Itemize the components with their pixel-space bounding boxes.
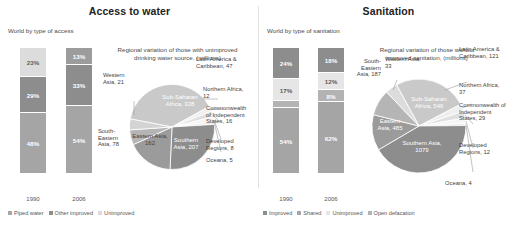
pie-label-cis: Commonwealth of Independent States, 29	[459, 102, 507, 122]
pie-label-northern-africa: Northern Africa, 37	[459, 82, 505, 95]
pie-label-south-eastern-asia: South-Eastern Asia, 187	[351, 58, 381, 78]
pie-label-oceana: Oceana, 5	[206, 157, 250, 164]
legend-item-improved: Improved	[263, 210, 292, 216]
pie-label-latin-america: Latin America & Caribbean, 47	[196, 56, 244, 69]
bar-segment-label: 33%	[66, 82, 92, 89]
legend-swatch-icon	[49, 211, 53, 215]
bar-segment-label: 8%	[318, 92, 344, 99]
bar-segment-piped-water: 48%	[20, 113, 46, 173]
legend-item-piped-water: Piped water	[8, 210, 44, 216]
legend-swatch-icon	[263, 211, 267, 215]
pie-label-oceana: Oceana, 4	[445, 180, 485, 187]
bar-segment-label: 17%	[273, 86, 299, 93]
bar-segment-label: 54%	[66, 136, 92, 143]
bars-subtitle-sanitation: World by type of sanitation	[267, 27, 340, 34]
legend-swatch-icon	[8, 211, 12, 215]
bar-year-label-1990: 1990	[270, 196, 302, 202]
bar-year-label-2006: 2006	[315, 196, 347, 202]
legend-item-shared: Shared	[297, 210, 321, 216]
panel-sanitation: Sanitation World by type of sanitation 2…	[259, 0, 518, 231]
bar-segment-other-improved: 29%	[20, 77, 46, 113]
pie-label-southern-asia: Southern Asia, 207	[167, 137, 205, 150]
legend-item-other-improved: Other improved	[49, 210, 94, 216]
bar-segment-unimproved: 13%	[66, 48, 92, 65]
pie-label-southern-asia: Southern Asia, 1079	[400, 140, 444, 153]
pie-label-developed-regions: Developed Regions, 12	[459, 142, 505, 155]
bar-year-label-1990: 1990	[17, 196, 49, 202]
pie-label-eastern-asia: Eastern Asia, 162	[132, 133, 168, 146]
pie-label-south-eastern-asia: South-Eastern Asia, 78	[98, 128, 126, 148]
legend-label: Shared	[303, 210, 321, 216]
legend-swatch-icon	[297, 211, 301, 215]
bar-segment-label: 48%	[20, 140, 46, 147]
pie-label-eastern-asia: Eastern Asia, 485	[373, 118, 407, 131]
legend-swatch-icon	[368, 211, 372, 215]
stacked-bar-sanitation-1990: 24% 17% 54%	[273, 48, 299, 173]
bar-segment-unimproved: 8%	[318, 90, 344, 102]
bar-segment-other-improved: 33%	[66, 65, 92, 106]
legend-swatch-icon	[326, 211, 330, 215]
pie-label-western-asia: Western Asia, 33	[385, 56, 421, 69]
bar-segment-label: 24%	[273, 60, 299, 67]
pie-label-western-asia: Western Asia, 21	[103, 72, 137, 85]
legend-label: Unimproved	[332, 210, 362, 216]
bar-segment-open-defacation: 62%	[318, 102, 344, 173]
bar-segment-unimproved	[273, 101, 299, 108]
pie-label-cis: Commonwealth of Independent States, 16	[206, 105, 250, 125]
panel-access-to-water: Access to water World by type of access …	[0, 0, 259, 231]
bar-segment-improved: 24%	[273, 48, 299, 79]
bar-segment-label: 12%	[318, 78, 344, 85]
legend-sanitation: Improved Shared Unimproved Open defacati…	[263, 210, 415, 216]
stacked-bar-sanitation-2006: 18% 12% 8% 62%	[318, 48, 344, 173]
pie-label-latin-america: Latin America & Caribbean, 121	[459, 46, 509, 59]
pie-label-northern-africa: Northern Africa, 12	[203, 86, 245, 99]
bar-segment-label: 23%	[20, 59, 46, 66]
bar-segment-piped-water: 54%	[66, 106, 92, 173]
bar-segment-open-defacation: 54%	[273, 108, 299, 173]
infographic-root: Access to water World by type of access …	[0, 0, 518, 231]
stacked-bar-water-1990: 23% 29% 48%	[20, 48, 46, 173]
legend-label: Piped water	[14, 210, 44, 216]
legend-label: Improved	[269, 210, 292, 216]
bar-segment-label: 29%	[20, 91, 46, 98]
bar-segment-improved: 18%	[318, 48, 344, 73]
pie-label-sub-saharan-africa: Sub-Saharan Africa, 328	[156, 94, 204, 107]
bar-segment-shared: 12%	[318, 73, 344, 90]
stacked-bar-water-2006: 13% 33% 54%	[66, 48, 92, 173]
bar-segment-unimproved: 23%	[20, 48, 46, 77]
pie-title-line-1: Regional variation of those with unimpro…	[100, 46, 255, 54]
legend-label: Other improved	[55, 210, 94, 216]
legend-water: Piped water Other improved Unimproved	[8, 210, 134, 216]
page-title-sanitation: Sanitation	[259, 5, 518, 17]
page-title-water: Access to water	[0, 5, 259, 17]
bars-subtitle-water: World by type of access	[8, 27, 74, 34]
legend-label: Open defacation	[374, 210, 415, 216]
bar-year-label-2006: 2006	[63, 196, 95, 202]
bar-segment-label: 62%	[318, 134, 344, 141]
bar-segment-shared: 17%	[273, 79, 299, 101]
pie-label-developed-regions: Developed Regions, 8	[206, 138, 250, 151]
legend-item-open-defacation: Open defacation	[368, 210, 415, 216]
legend-item-unimproved: Unimproved	[326, 210, 362, 216]
bar-segment-label: 13%	[66, 53, 92, 60]
legend-label: Unimproved	[104, 210, 134, 216]
bar-segment-label: 18%	[318, 57, 344, 64]
legend-swatch-icon	[98, 211, 102, 215]
legend-item-unimproved: Unimproved	[98, 210, 134, 216]
pie-label-sub-saharan-africa: Sub-Saharan Africa, 546	[403, 96, 455, 109]
bar-segment-label: 54%	[273, 137, 299, 144]
